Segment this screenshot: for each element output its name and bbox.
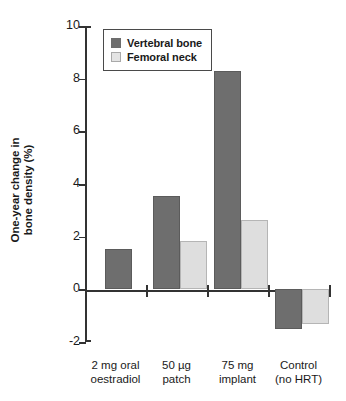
x-tick-mark	[329, 285, 331, 297]
y-axis-title-text: One-year change in bone density (%)	[9, 138, 36, 243]
x-tick-mark	[85, 285, 87, 297]
bar	[275, 289, 302, 329]
y-tick-label: 4	[40, 176, 80, 190]
plot-area: 1086420-2 Vertebral bone Femoral neck	[85, 26, 329, 342]
legend-item-femoral-neck: Femoral neck	[111, 51, 202, 63]
y-tick-label: -2	[40, 334, 80, 348]
bar	[241, 220, 268, 290]
y-tick-mark	[79, 237, 86, 239]
bar	[302, 289, 329, 323]
bar	[153, 196, 180, 289]
x-tick-mark	[146, 285, 148, 297]
y-tick-mark	[79, 26, 86, 28]
x-category-label: Control (no HRT)	[268, 358, 329, 386]
x-category-label: 75 mg implant	[207, 358, 268, 386]
bar	[180, 241, 207, 290]
y-tick-label: 6	[40, 123, 80, 137]
y-axis-title: One-year change in bone density (%)	[2, 90, 42, 290]
y-tick-label: 10	[40, 18, 80, 32]
y-tick-label: 8	[40, 71, 80, 85]
legend-swatch-icon-femoral-neck	[111, 52, 121, 62]
y-tick-mark	[79, 79, 86, 81]
legend-label-femoral-neck: Femoral neck	[127, 51, 197, 63]
y-tick-label: 0	[40, 281, 80, 295]
x-category-label: 2 mg oral oestradiol	[85, 358, 146, 386]
y-tick-mark	[79, 131, 86, 133]
legend-swatch-icon-vertebral-bone	[111, 38, 121, 48]
x-category-label: 50 µg patch	[146, 358, 207, 386]
bar	[105, 249, 132, 290]
y-tick-mark	[79, 184, 86, 186]
chart-legend: Vertebral bone Femoral neck	[103, 29, 212, 71]
legend-label-vertebral-bone: Vertebral bone	[127, 37, 202, 49]
x-tick-mark	[207, 285, 209, 297]
bar	[214, 71, 241, 290]
x-axis-category-labels: 2 mg oral oestradiol50 µg patch75 mg imp…	[85, 358, 329, 398]
bar-chart: One-year change in bone density (%) 1086…	[0, 0, 346, 401]
y-tick-mark	[79, 342, 86, 344]
y-tick-label: 2	[40, 229, 80, 243]
legend-item-vertebral-bone: Vertebral bone	[111, 37, 202, 49]
x-tick-mark	[268, 285, 270, 297]
